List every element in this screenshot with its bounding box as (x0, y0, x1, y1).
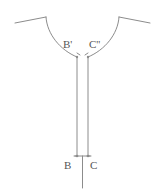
left-wing-line (15, 17, 46, 23)
diagram-strokes (15, 17, 150, 188)
point-marker-lower-right (87, 155, 89, 157)
point-marker-upper-left (76, 56, 78, 58)
label-c: C (90, 160, 97, 171)
diagram-point-markers (76, 56, 89, 157)
figure-canvas: B' C'' B C (0, 0, 165, 195)
label-b: B (64, 160, 71, 171)
left-arc-curve (46, 17, 77, 57)
right-arc-curve (88, 17, 119, 57)
right-wing-line (119, 17, 150, 23)
label-c-prime: C'' (89, 39, 100, 50)
diagram-svg (0, 0, 165, 195)
tick-upper-left (77, 53, 80, 55)
tick-upper-right (85, 53, 88, 55)
point-marker-upper-right (87, 56, 89, 58)
label-b-prime: B' (63, 39, 72, 50)
point-marker-lower-left (76, 155, 78, 157)
